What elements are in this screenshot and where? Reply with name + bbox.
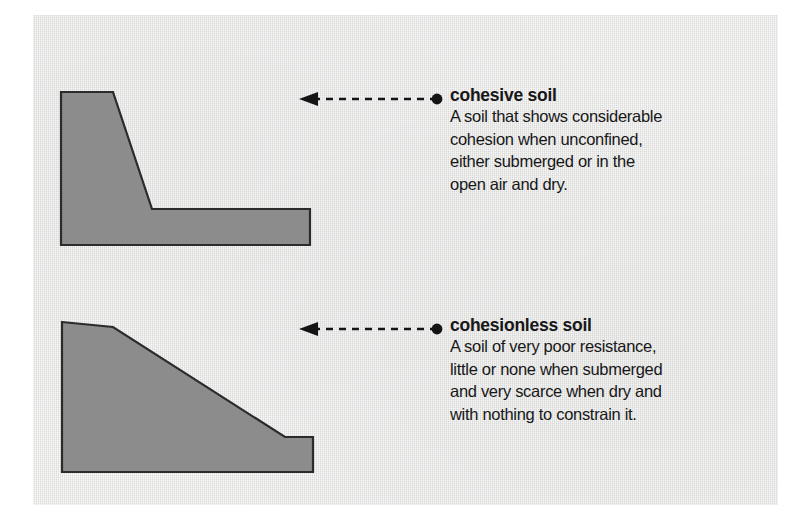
cohesive-soil-description: A soil that shows considerable cohesion … xyxy=(450,105,662,195)
cohesive-soil-entry: cohesive soil A soil that shows consider… xyxy=(450,86,662,195)
cohesionless-soil-description-line-3: and very scarce when dry and xyxy=(450,380,662,403)
cohesive-soil-description-line-2: cohesion when unconfined, xyxy=(450,128,662,151)
diagram-panel xyxy=(33,15,778,505)
cohesive-soil-title: cohesive soil xyxy=(450,86,662,105)
cohesive-soil-description-line-1: A soil that shows considerable xyxy=(450,105,662,128)
cohesionless-soil-description: A soil of very poor resistance, little o… xyxy=(450,335,662,425)
soil-types-diagram: cohesive soil A soil that shows consider… xyxy=(0,0,801,524)
cohesive-soil-description-line-4: open air and dry. xyxy=(450,173,662,196)
cohesive-soil-description-line-3: either submerged or in the xyxy=(450,150,662,173)
cohesionless-soil-entry: cohesionless soil A soil of very poor re… xyxy=(450,316,662,425)
cohesionless-soil-description-line-4: with nothing to constrain it. xyxy=(450,403,662,426)
cohesionless-soil-description-line-1: A soil of very poor resistance, xyxy=(450,335,662,358)
cohesionless-soil-title: cohesionless soil xyxy=(450,316,662,335)
cohesionless-soil-description-line-2: little or none when submerged xyxy=(450,358,662,381)
